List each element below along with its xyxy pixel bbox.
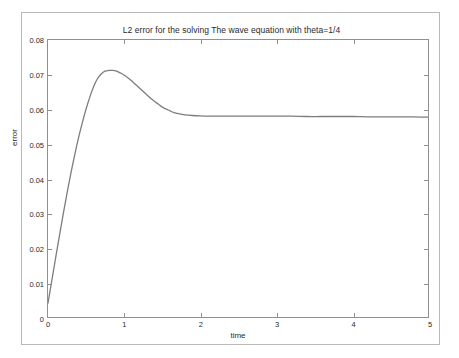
y-tick-mark [48,284,52,285]
x-tick-mark-top [124,40,125,44]
x-tick-label: 1 [122,320,126,329]
x-tick-mark [277,313,278,317]
y-tick-mark [48,214,52,215]
x-tick-mark-top [277,40,278,44]
y-tick-mark-right [424,110,428,111]
y-tick-label: 0.05 [29,140,44,149]
y-tick-mark [48,110,52,111]
x-tick-label: 3 [275,320,279,329]
y-tick-mark [48,145,52,146]
y-tick-label: 0 [40,315,44,324]
y-tick-label: 0.02 [29,245,44,254]
x-tick-label: 4 [352,320,356,329]
y-tick-mark [48,180,52,181]
chart-title: L2 error for the solving The wave equati… [22,25,441,35]
x-tick-label: 0 [46,320,50,329]
y-tick-label: 0.01 [29,280,44,289]
x-tick-mark-top [201,40,202,44]
y-tick-mark-right [424,214,428,215]
y-tick-label: 0.07 [29,70,44,79]
x-tick-mark [354,313,355,317]
x-tick-mark [124,313,125,317]
x-axis-label: time [47,331,429,340]
y-tick-label: 0.04 [29,175,44,184]
data-line-l2-error [48,70,428,303]
y-tick-mark [48,249,52,250]
figure-panel: L2 error for the solving The wave equati… [21,12,440,345]
y-tick-mark-right [424,180,428,181]
y-axis-label: error [10,129,19,146]
curve-svg [48,40,428,317]
x-tick-mark [201,313,202,317]
x-tick-label: 5 [428,320,432,329]
plot-area: 00.010.020.030.040.050.060.070.08012345 [47,39,429,318]
y-tick-mark [48,75,52,76]
x-tick-mark-top [354,40,355,44]
y-tick-mark-right [424,284,428,285]
y-tick-label: 0.06 [29,105,44,114]
x-tick-label: 2 [199,320,203,329]
y-tick-mark-right [424,249,428,250]
y-tick-label: 0.08 [29,36,44,45]
y-tick-mark-right [424,145,428,146]
y-tick-label: 0.03 [29,210,44,219]
y-tick-mark-right [424,75,428,76]
